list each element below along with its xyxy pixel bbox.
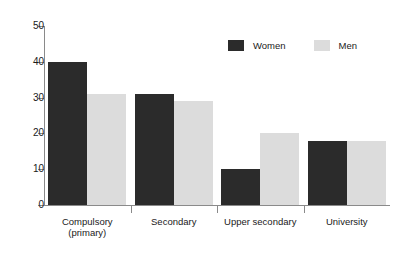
bar-group [48, 26, 126, 205]
category-label-line: (primary) [44, 227, 131, 238]
bar-women-0 [48, 62, 87, 205]
bar-men-3 [347, 141, 386, 205]
x-tick-mark [217, 206, 218, 213]
x-tick-mark [131, 206, 132, 213]
bar-group [221, 26, 299, 205]
category-label-line: Upper secondary [217, 216, 304, 227]
men-swatch-icon [314, 40, 330, 51]
category-label-line: Secondary [131, 216, 218, 227]
women-swatch-icon [228, 40, 244, 51]
legend-label-women: Women [253, 40, 286, 51]
bar-group [308, 26, 386, 205]
bar-men-2 [260, 133, 299, 205]
y-tick-label: 40 [10, 57, 44, 67]
category-label-3: University [304, 216, 391, 227]
y-tick-label: 20 [10, 128, 44, 138]
legend: Women Men [228, 40, 357, 51]
bar-group [135, 26, 213, 205]
x-tick-mark [304, 206, 305, 213]
category-label-0: Compulsory(primary) [44, 216, 131, 238]
category-label-line: University [304, 216, 391, 227]
y-tick-label: 30 [10, 93, 44, 103]
category-label-2: Upper secondary [217, 216, 304, 227]
y-tick-40: 40 [0, 62, 44, 63]
legend-label-men: Men [339, 40, 357, 51]
y-tick-0: 0 [0, 205, 44, 206]
legend-item-women: Women [228, 40, 286, 51]
bar-women-3 [308, 141, 347, 205]
y-tick-10: 10 [0, 169, 44, 170]
legend-item-men: Men [314, 40, 357, 51]
bar-men-0 [87, 94, 126, 205]
y-tick-label: 0 [10, 200, 44, 210]
bar-women-2 [221, 169, 260, 205]
category-label-1: Secondary [131, 216, 218, 227]
y-tick-20: 20 [0, 133, 44, 134]
y-tick-30: 30 [0, 98, 44, 99]
category-label-line: Compulsory [44, 216, 131, 227]
grouped-bar-chart: 01020304050 Compulsory(primary)Secondary… [0, 0, 403, 256]
y-tick-50: 50 [0, 26, 44, 27]
y-tick-label: 50 [10, 21, 44, 31]
y-tick-label: 10 [10, 164, 44, 174]
plot-area [44, 26, 390, 205]
bar-women-1 [135, 94, 174, 205]
bar-men-1 [174, 101, 213, 205]
